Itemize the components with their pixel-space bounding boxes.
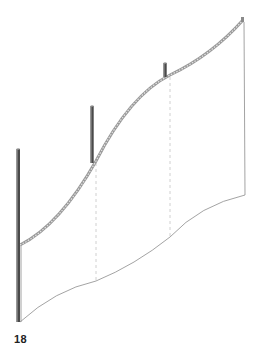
cable-anchor-end — [241, 17, 244, 22]
membrane-panel — [20, 20, 245, 322]
membrane-wall-diagram — [0, 0, 259, 349]
mast-3 — [164, 62, 167, 77]
figure-number: 18 — [14, 333, 27, 345]
mast-2 — [91, 105, 94, 163]
mast-1 — [16, 148, 20, 322]
